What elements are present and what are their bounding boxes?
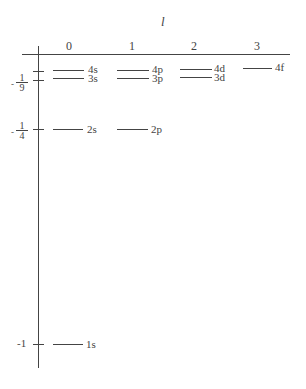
level-line-2p: [117, 129, 148, 130]
level-line-4d: [180, 69, 212, 70]
level-line-3s: [53, 78, 84, 79]
column-label-3: 3: [254, 40, 260, 52]
tick-n4: [33, 71, 44, 72]
level-line-4s: [53, 70, 84, 71]
level-label-3d: 3d: [214, 72, 225, 83]
level-line-4f: [243, 68, 272, 69]
level-line-3d: [180, 77, 212, 78]
horizontal-axis: [22, 54, 290, 55]
level-label-1s: 1s: [86, 339, 96, 350]
level-label-3p: 3p: [152, 73, 163, 84]
level-line-2s: [53, 129, 83, 130]
level-line-4p: [117, 70, 149, 71]
y-label-minus-one: -1: [17, 337, 26, 349]
y-label-minus-one-quarter: - 1 4: [16, 121, 28, 141]
tick-n3: [33, 80, 44, 81]
tick-n1: [33, 344, 44, 345]
level-label-2p: 2p: [151, 124, 162, 135]
column-label-1: 1: [129, 40, 135, 52]
level-label-2s: 2s: [87, 124, 97, 135]
column-label-2: 2: [191, 40, 197, 52]
energy-axis: [38, 46, 39, 368]
axis-title-l: l: [161, 14, 165, 30]
column-label-0: 0: [66, 40, 72, 52]
tick-n2: [33, 129, 44, 130]
level-line-1s: [53, 344, 83, 345]
y-label-minus-one-ninth: - 1 9: [16, 73, 28, 93]
level-label-4f: 4f: [275, 62, 284, 73]
level-line-3p: [117, 78, 149, 79]
level-label-3s: 3s: [88, 73, 98, 84]
